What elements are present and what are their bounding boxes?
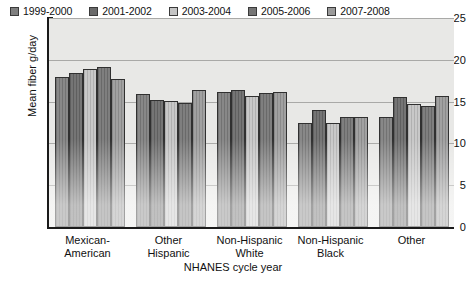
chart-figure: Mean fiber g/day 0510152025 1999-2000200… [0, 0, 466, 281]
bar[interactable] [192, 90, 206, 227]
bar[interactable] [298, 123, 312, 228]
legend-swatch-icon [89, 7, 98, 16]
x-tick-label: Other Hispanic [128, 234, 209, 260]
bar[interactable] [393, 97, 407, 227]
bar[interactable] [83, 69, 97, 227]
bar-group [55, 18, 125, 227]
legend-item-2005-2006[interactable]: 2005-2006 [248, 5, 310, 17]
legend-label: 2003-2004 [182, 5, 231, 17]
bar[interactable] [97, 67, 111, 227]
legend-label: 1999-2000 [23, 5, 72, 17]
bar[interactable] [231, 90, 245, 227]
x-tick-label: Non-Hispanic Black [290, 234, 371, 260]
bars-layer [49, 18, 454, 227]
legend-label: 2001-2002 [102, 5, 151, 17]
legend-swatch-icon [169, 7, 178, 16]
bar[interactable] [55, 77, 69, 227]
bar[interactable] [340, 117, 354, 227]
bar[interactable] [217, 92, 231, 227]
x-tick-label: Other [371, 234, 452, 247]
legend-swatch-icon [248, 7, 257, 16]
legend-item-1999-2000[interactable]: 1999-2000 [10, 5, 72, 17]
bar-group [217, 18, 287, 227]
legend-label: 2005-2006 [261, 5, 310, 17]
bar[interactable] [136, 94, 150, 227]
plot-area [47, 18, 454, 229]
bar[interactable] [435, 96, 449, 227]
legend-label: 2007-2008 [340, 5, 389, 17]
x-tick-label: Mexican- American [47, 234, 128, 260]
bar[interactable] [326, 123, 340, 227]
bar-group [136, 18, 206, 227]
bar[interactable] [273, 92, 287, 227]
legend-swatch-icon [10, 7, 19, 16]
bar[interactable] [421, 106, 435, 227]
bar[interactable] [150, 100, 164, 227]
bar-group [379, 18, 449, 227]
bar[interactable] [69, 73, 83, 227]
y-axis-title: Mean fiber g/day [26, 0, 38, 156]
legend-item-2001-2002[interactable]: 2001-2002 [89, 5, 151, 17]
bar[interactable] [164, 101, 178, 227]
bar[interactable] [245, 96, 259, 227]
bar[interactable] [354, 117, 368, 227]
bar[interactable] [111, 79, 125, 227]
x-axis-title: NHANES cycle year [0, 261, 466, 273]
legend-item-2003-2004[interactable]: 2003-2004 [169, 5, 231, 17]
legend: 1999-20002001-20022003-20042005-20062007… [10, 5, 390, 17]
bar[interactable] [407, 104, 421, 227]
bar-group [298, 18, 368, 227]
legend-item-2007-2008[interactable]: 2007-2008 [327, 5, 389, 17]
bar[interactable] [178, 103, 192, 227]
bar[interactable] [379, 117, 393, 227]
x-tick-label: Non-Hispanic White [209, 234, 290, 260]
bar[interactable] [259, 93, 273, 227]
legend-swatch-icon [327, 7, 336, 16]
bar[interactable] [312, 110, 326, 227]
